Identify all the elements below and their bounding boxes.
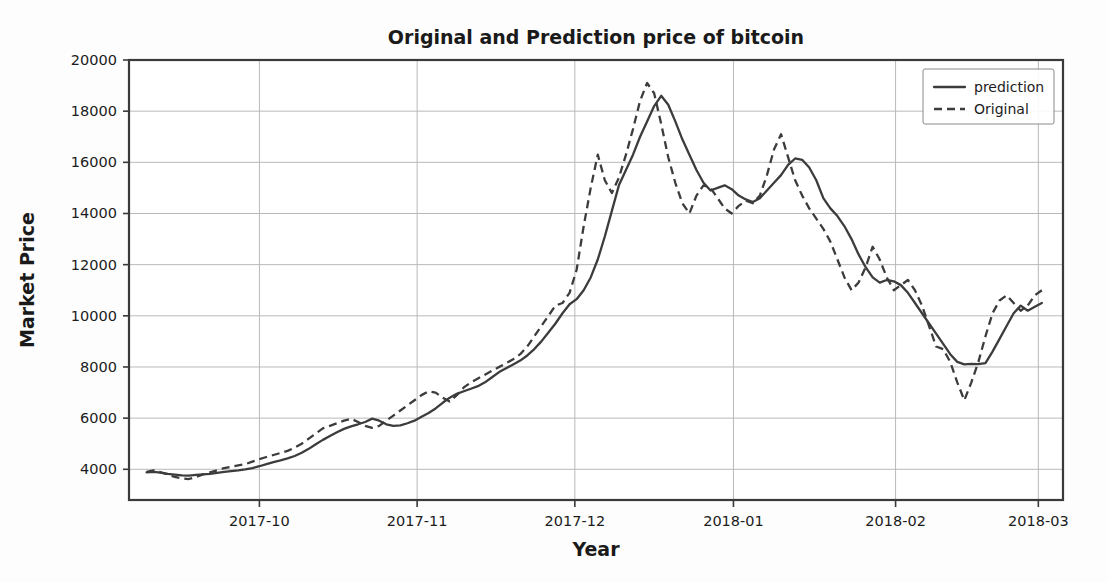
chart-figure: 4000600080001000012000140001600018000200… [0,0,1108,582]
x-axis-label: Year [571,538,620,560]
y-tick-label: 4000 [80,461,117,477]
y-tick-label: 14000 [71,205,117,221]
x-tick-label: 2017-11 [387,513,448,529]
y-tick-label: 8000 [80,359,117,375]
plot-area-background [129,60,1063,500]
x-tick-label: 2018-03 [1008,513,1069,529]
bitcoin-price-line-chart: 4000600080001000012000140001600018000200… [0,0,1108,582]
y-tick-label: 20000 [71,52,117,68]
x-tick-label: 2018-01 [703,513,764,529]
x-tick-label: 2017-10 [229,513,290,529]
y-axis-label: Market Price [16,212,38,348]
y-tick-label: 18000 [71,103,117,119]
chart-title: Original and Prediction price of bitcoin [388,26,804,48]
legend-label-original: Original [974,101,1029,117]
y-tick-label: 10000 [71,308,117,324]
y-tick-label: 6000 [80,410,117,426]
chart-legend: predictionOriginal [923,69,1054,124]
x-tick-label: 2018-02 [865,513,926,529]
y-tick-label: 16000 [71,154,117,170]
x-tick-label: 2017-12 [545,513,606,529]
y-tick-label: 12000 [71,257,117,273]
legend-label-prediction: prediction [974,79,1044,95]
